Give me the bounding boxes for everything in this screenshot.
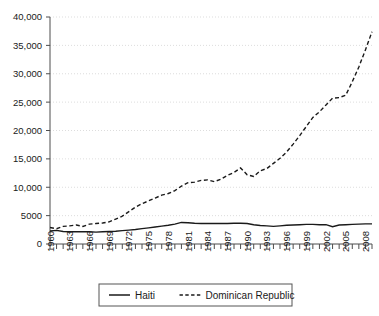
x-tick-label: 1990 (242, 231, 253, 252)
gridlines-group (50, 17, 372, 216)
x-axis: 1960196319661969197219751978198119841987… (45, 231, 372, 252)
y-tick-label: 35,000 (13, 40, 42, 51)
x-tick-label: 1966 (84, 231, 95, 252)
x-tick-label: 1984 (202, 231, 213, 252)
legend-label-haiti: Haiti (135, 290, 155, 301)
x-tick-label: 1993 (261, 231, 272, 252)
y-tick-label: 25,000 (13, 97, 42, 108)
x-tick-label: 1972 (123, 231, 134, 252)
line-chart: 40,00035,00030,00025,00020,00015,00010,0… (0, 0, 379, 316)
chart-legend: HaitiDominican Republic (99, 284, 294, 306)
x-tick-label: 1999 (301, 231, 312, 252)
y-tick-label: 40,000 (13, 11, 42, 22)
x-tick-label: 2002 (321, 231, 332, 252)
x-tick-labels: 1960196319661969197219751978198119841987… (45, 231, 371, 252)
y-tick-label: 5000 (21, 210, 42, 221)
x-tick-label: 1960 (45, 231, 56, 252)
y-tick-label: 0 (37, 238, 42, 249)
series-group (50, 32, 372, 232)
x-tick-label: 1981 (183, 231, 194, 252)
x-tick-label: 1969 (104, 231, 115, 252)
x-tick-label: 2005 (340, 231, 351, 252)
y-tick-label: 15,000 (13, 153, 42, 164)
x-tick-label: 2008 (360, 231, 371, 252)
x-tick-label: 1996 (281, 231, 292, 252)
y-tick-labels: 40,00035,00030,00025,00020,00015,00010,0… (13, 11, 42, 249)
y-axis: 40,00035,00030,00025,00020,00015,00010,0… (13, 11, 50, 249)
chart-figure: 40,00035,00030,00025,00020,00015,00010,0… (0, 0, 379, 316)
legend-label-dominican-republic: Dominican Republic (206, 290, 295, 301)
x-tick-label: 1987 (222, 231, 233, 252)
x-tick-label: 1978 (163, 231, 174, 252)
y-tick-label: 30,000 (13, 68, 42, 79)
y-tick-label: 10,000 (13, 182, 42, 193)
x-tick-label: 1975 (143, 231, 154, 252)
x-tick-label: 1963 (64, 231, 75, 252)
y-tick-label: 20,000 (13, 125, 42, 136)
y-tick-marks (46, 17, 50, 244)
